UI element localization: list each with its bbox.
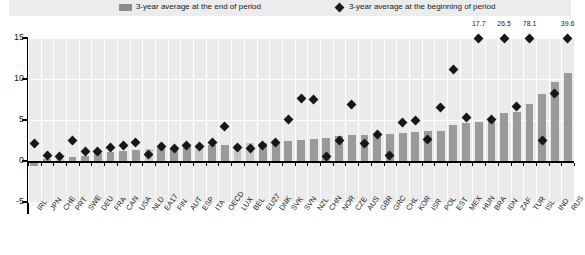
y-axis-label: 0 — [0, 156, 24, 165]
x-tick — [41, 163, 42, 166]
gridline-vertical — [485, 38, 486, 202]
x-tick — [472, 163, 473, 166]
x-tick — [371, 163, 372, 166]
x-tick — [269, 163, 270, 166]
x-tick — [561, 163, 562, 166]
bar-FRA — [107, 152, 115, 161]
gridline-vertical — [434, 38, 435, 202]
value-label-TUR: 78.1 — [518, 20, 542, 27]
x-tick — [206, 163, 207, 166]
gridline-vertical — [130, 38, 131, 202]
gridline-vertical — [53, 38, 54, 202]
bar-MEX — [462, 123, 470, 161]
gridline-horizontal — [28, 38, 574, 39]
x-tick — [53, 163, 54, 166]
legend-item-bar: 3-year average at the end of period — [119, 2, 261, 12]
gridline-vertical — [155, 38, 156, 202]
x-tick — [523, 163, 524, 166]
x-tick — [117, 163, 118, 166]
bar-SVN — [297, 140, 305, 161]
bar-POL — [437, 131, 445, 161]
x-tick — [91, 163, 92, 166]
x-tick — [28, 163, 29, 166]
x-tick — [155, 163, 156, 166]
gridline-vertical — [257, 38, 258, 202]
x-tick — [66, 163, 67, 166]
bar-ISL — [538, 94, 546, 161]
gridline-vertical — [460, 38, 461, 202]
x-tick — [574, 163, 575, 166]
gridline-vertical — [396, 38, 397, 202]
gridline-vertical — [180, 38, 181, 202]
x-tick — [320, 163, 321, 166]
gridline-vertical — [345, 38, 346, 202]
x-tick — [180, 163, 181, 166]
x-tick — [130, 163, 131, 166]
x-tick — [536, 163, 537, 166]
x-tick — [307, 163, 308, 166]
x-tick — [358, 163, 359, 166]
x-tick — [345, 163, 346, 166]
diamond-swatch-icon — [335, 2, 345, 12]
gridline-vertical — [79, 38, 80, 202]
gridline-vertical — [371, 38, 372, 202]
gridline-vertical — [498, 38, 499, 202]
gridline-vertical — [447, 38, 448, 202]
gridline-vertical — [333, 38, 334, 202]
bar-HUN — [475, 122, 483, 161]
x-tick — [257, 163, 258, 166]
bar-OECD — [221, 145, 229, 161]
legend-item-diamond: 3-year average at the beginning of perio… — [334, 2, 495, 12]
gridline-vertical — [561, 38, 562, 202]
x-tick — [79, 163, 80, 166]
gridline-vertical — [536, 38, 537, 202]
bar-IDN — [500, 113, 508, 161]
value-label-IDN: 26.5 — [492, 20, 516, 27]
gridline-vertical — [384, 38, 385, 202]
bar-SVK — [284, 141, 292, 162]
gridline-vertical — [472, 38, 473, 202]
gridline-vertical — [142, 38, 143, 202]
x-tick — [168, 163, 169, 166]
x-tick — [218, 163, 219, 166]
x-tick — [511, 163, 512, 166]
x-tick — [193, 163, 194, 166]
gridline-vertical — [320, 38, 321, 202]
chart-legend: 3-year average at the end of period 3-ye… — [9, 0, 571, 16]
x-tick — [434, 163, 435, 166]
bar-USA — [132, 150, 140, 161]
zero-axis-line — [28, 161, 574, 163]
x-tick — [384, 163, 385, 166]
gridline-vertical — [511, 38, 512, 202]
bar-CHL — [399, 133, 407, 161]
x-tick — [142, 163, 143, 166]
gridline-vertical — [422, 38, 423, 202]
gridline-vertical — [574, 38, 575, 202]
gridline-horizontal — [28, 79, 574, 80]
gridline-vertical — [549, 38, 550, 202]
gridline-vertical — [218, 38, 219, 202]
x-tick — [244, 163, 245, 166]
x-tick — [295, 163, 296, 166]
gridline-vertical — [244, 38, 245, 202]
gridline-vertical — [295, 38, 296, 202]
x-tick — [485, 163, 486, 166]
bar-TUR — [526, 104, 534, 161]
y-axis-label: 10 — [0, 74, 24, 83]
gridline-vertical — [282, 38, 283, 202]
bar-NZL — [310, 139, 318, 161]
gridline-vertical — [41, 38, 42, 202]
bar-swatch-icon — [119, 4, 132, 11]
gridline-vertical — [117, 38, 118, 202]
gridline-vertical — [206, 38, 207, 202]
y-axis-label: 5 — [0, 115, 24, 124]
gridline-vertical — [523, 38, 524, 202]
gridline-vertical — [168, 38, 169, 202]
x-tick — [460, 163, 461, 166]
gridline-vertical — [104, 38, 105, 202]
gridline-vertical — [66, 38, 67, 202]
gridline-vertical — [358, 38, 359, 202]
x-tick — [549, 163, 550, 166]
gridline-vertical — [307, 38, 308, 202]
